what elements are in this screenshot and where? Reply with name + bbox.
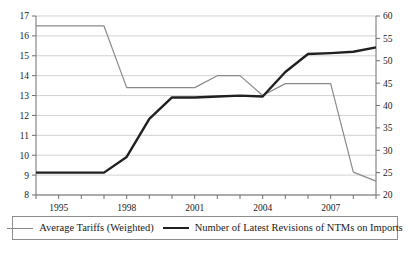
right-tick-label: 60 (383, 11, 393, 21)
x-tick-label: 2004 (253, 203, 272, 213)
left-tick-label: 15 (20, 51, 30, 61)
data-series-layer (36, 26, 376, 181)
legend-label: Number of Latest Revisions of NTMs on Im… (195, 223, 403, 234)
right-tick-label: 25 (383, 168, 393, 178)
left-tick-label: 8 (24, 190, 29, 200)
legend-label: Average Tariffs (Weighted) (39, 223, 153, 234)
legend-entry: Average Tariffs (Weighted) (7, 223, 153, 234)
x-tick-label: 1995 (49, 203, 68, 213)
legend-line-swatch (163, 227, 189, 229)
left-tick-label: 11 (20, 131, 29, 141)
right-tick-label: 50 (383, 56, 393, 66)
left-tick-label: 14 (20, 71, 30, 81)
axis-lines (36, 16, 376, 195)
x-tick-label: 1998 (117, 203, 136, 213)
x-tick-label: 2007 (321, 203, 340, 213)
series-line (36, 26, 376, 181)
left-tick-label: 17 (20, 11, 30, 21)
right-axis-ticks: 202530354045505560 (376, 11, 393, 200)
left-axis-ticks: 891011121314151617 (20, 11, 37, 200)
right-tick-label: 40 (383, 101, 393, 111)
x-tick-label: 2001 (185, 203, 204, 213)
chart-legend: Average Tariffs (Weighted)Number of Late… (12, 216, 398, 240)
gridlines (36, 16, 376, 195)
series-line (36, 47, 376, 172)
legend-entry: Number of Latest Revisions of NTMs on Im… (163, 223, 403, 234)
x-axis-ticks: 19951998200120042007 (36, 195, 376, 213)
left-tick-label: 9 (24, 171, 29, 181)
right-tick-label: 45 (383, 79, 393, 89)
right-tick-label: 20 (383, 190, 393, 200)
legend-line-swatch (7, 228, 33, 229)
right-tick-label: 30 (383, 146, 393, 156)
right-tick-label: 35 (383, 123, 393, 133)
left-tick-label: 10 (20, 151, 30, 161)
left-tick-label: 16 (20, 31, 30, 41)
right-tick-label: 55 (383, 34, 393, 44)
left-tick-label: 13 (20, 91, 30, 101)
left-tick-label: 12 (20, 111, 30, 121)
